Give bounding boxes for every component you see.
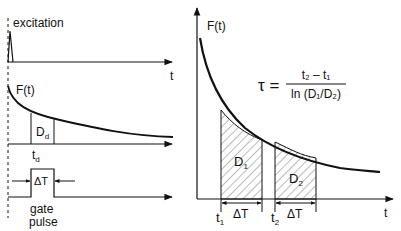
gate1-width-label: ΔT [233, 207, 249, 221]
excitation-label: excitation [13, 16, 64, 30]
lifetime-gating-diagram: excitation t F(t) Dd td ΔT gate pulse F(… [0, 0, 401, 231]
formula-lhs: τ = [258, 76, 279, 95]
right-t-label: t [384, 206, 388, 220]
gate-label-line2: pulse [29, 215, 58, 229]
lifetime-formula: τ = t₂ – t₁ ln (D₁/D₂) [258, 68, 346, 101]
formula-denominator: ln (D₁/D₂) [291, 87, 341, 101]
excitation-pulse [8, 31, 13, 62]
detected-area-label: Dd [36, 125, 49, 141]
t2-label: t2 [271, 210, 280, 227]
t1-label: t1 [216, 210, 225, 227]
formula-numerator: t₂ – t₁ [302, 68, 331, 82]
left-panel: excitation t F(t) Dd td ΔT gate pulse [8, 16, 174, 229]
excitation-t-label: t [170, 69, 174, 83]
gate-pulse [8, 169, 172, 197]
gate-label-line1: gate [30, 202, 54, 216]
left-ft-label: F(t) [16, 83, 35, 97]
right-ft-label: F(t) [207, 19, 226, 33]
gate2-width-label: ΔT [287, 207, 303, 221]
delay-label: td [32, 148, 40, 164]
gate-width-label: ΔT [34, 175, 48, 187]
right-panel: F(t) t D1 D2 ΔT ΔT t1 t2 τ = t₂ – t₁ ln … [197, 8, 393, 227]
